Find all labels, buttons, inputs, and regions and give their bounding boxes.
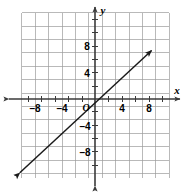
y-axis-label: y [99, 4, 106, 16]
x-tick-label-8: 8 [146, 103, 152, 114]
x-axis-label: x [173, 84, 180, 96]
graph-canvas: –8 –4 4 8 8 4 –4 –8 O x y [0, 0, 189, 192]
x-tick-label-neg4: –4 [56, 103, 68, 114]
y-tick-label-neg4: –4 [79, 121, 91, 132]
x-tick-label-4: 4 [119, 103, 125, 114]
y-tick-label-neg8: –8 [79, 147, 91, 158]
coordinate-plane-figure: –8 –4 4 8 8 4 –4 –8 O x y [0, 0, 189, 192]
y-tick-label-8: 8 [84, 41, 90, 52]
x-tick-label-neg8: –8 [29, 103, 41, 114]
origin-label: O [82, 102, 89, 113]
y-tick-label-4: 4 [84, 68, 90, 79]
